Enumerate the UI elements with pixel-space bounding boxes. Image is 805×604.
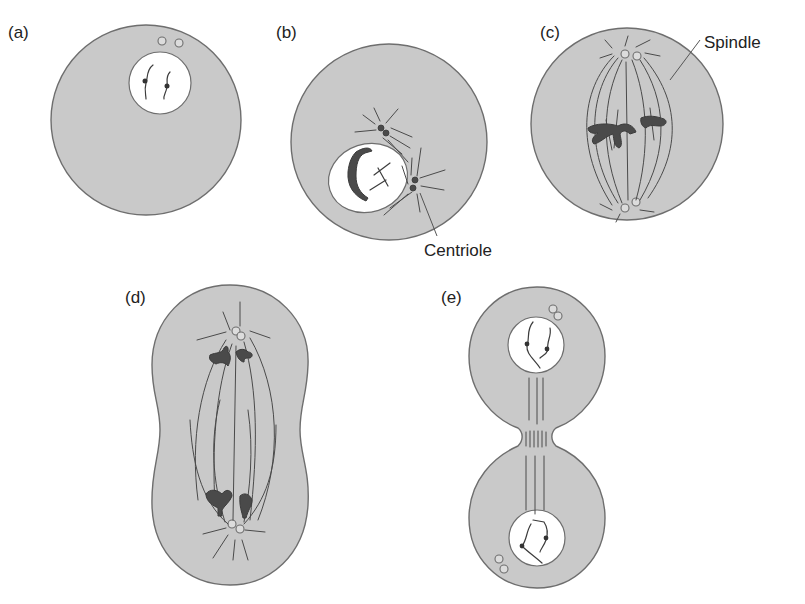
centriole-icon [412,177,418,183]
centriole-icon [158,37,166,45]
panel-label-c: (c) [540,23,560,42]
mitosis-diagram: (a) (b) (c) [0,0,805,604]
centriole-icon [495,555,503,563]
centriole-icon [228,520,236,528]
centriole-icon [237,332,245,340]
spindle-label: Spindle [704,33,761,52]
centromere [525,342,530,347]
panel-label-d: (d) [125,288,146,307]
panel-a-interphase: (a) [8,23,241,215]
nucleus [129,52,191,114]
centriole-icon [554,312,562,320]
panel-label-a: (a) [8,23,29,42]
centriole-icon [175,39,183,47]
centriole-icon [383,130,389,136]
panel-b-prophase: (b) [276,23,487,240]
centromere [544,536,549,541]
centriole-icon [500,565,508,573]
panel-label-b: (b) [276,23,297,42]
centriole-icon [633,52,641,60]
panel-e-telophase: (e) [441,287,605,588]
panel-d-anaphase: (d) [125,285,308,585]
panel-c-metaphase: (c) Spindle [531,23,761,222]
nucleus-bottom [509,510,565,566]
centriole-icon [410,185,416,191]
cell-membrane [51,25,241,215]
centriole-label: Centriole [424,241,492,260]
centromere [165,84,170,89]
centromere [545,347,550,352]
centromere [143,79,148,84]
nucleus-top [508,317,564,373]
centriole-icon [549,305,557,313]
centriole-icon [621,50,629,58]
centriole-icon [236,525,244,533]
centriole-icon [621,204,629,212]
panel-label-e: (e) [441,288,462,307]
centromere [520,544,525,549]
centriole-icon [378,125,384,131]
